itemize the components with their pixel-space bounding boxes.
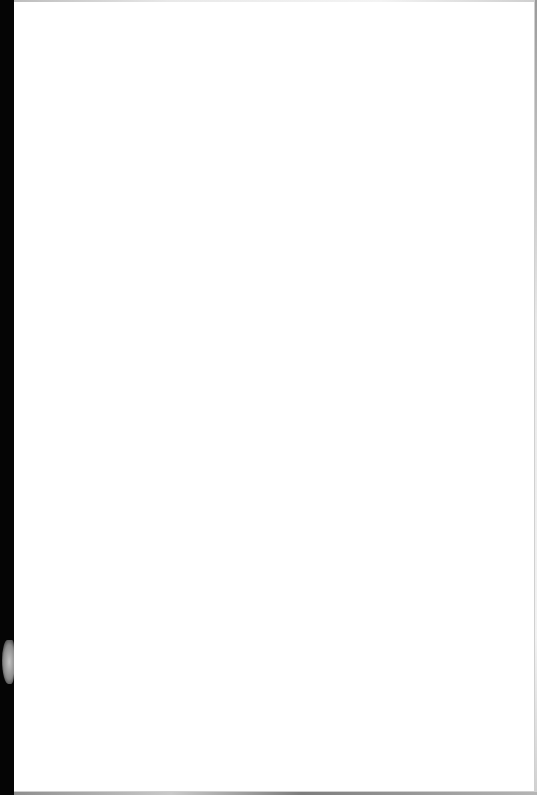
- photo-frame: [0, 0, 537, 795]
- blank-page: [14, 1, 535, 792]
- page-top-edge: [14, 0, 537, 2]
- smudge-mark: [2, 640, 14, 684]
